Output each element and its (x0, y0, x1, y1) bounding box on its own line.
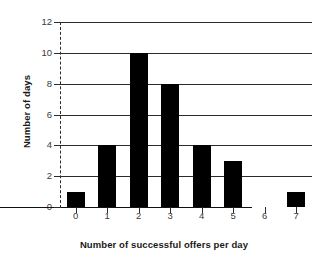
x-tick-label: 6 (254, 210, 276, 221)
bar-chart-figure: Number of days 024681012 01234567 Number… (0, 0, 328, 258)
x-axis-title: Number of successful offers per day (0, 239, 328, 250)
x-tick-label: 3 (159, 210, 181, 221)
x-tick-label: 1 (96, 210, 118, 221)
x-axis-tick-labels: 01234567 (0, 0, 328, 258)
x-tick-label: 7 (285, 210, 307, 221)
x-tick-label: 0 (65, 210, 87, 221)
x-tick-label: 4 (191, 210, 213, 221)
x-tick-label: 2 (128, 210, 150, 221)
x-tick-label: 5 (222, 210, 244, 221)
